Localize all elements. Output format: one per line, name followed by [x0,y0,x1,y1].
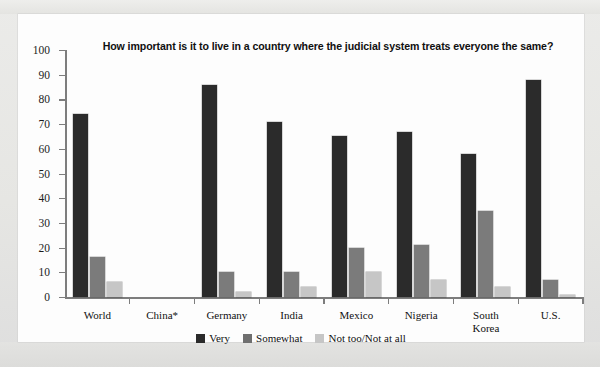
x-axis-category-label: Nigeria [389,309,454,322]
legend-item[interactable]: Somewhat [243,332,302,344]
legend-item[interactable]: Very [196,332,230,344]
bars-container [195,50,260,297]
bar[interactable] [414,245,429,297]
scan-band-top [0,0,600,14]
bar[interactable] [301,287,316,297]
x-axis-category-label: India [259,309,324,322]
bar[interactable] [543,280,558,297]
bar[interactable] [219,272,234,297]
bar-group: Germany [195,50,260,297]
y-tick-label: 40 [39,192,51,204]
bar-group: World [65,50,130,297]
plot-area: 1009080706050403020100 WorldChina*German… [65,50,583,297]
y-tick-label: 90 [39,69,51,81]
bars-container [454,50,519,297]
y-tick-label: 10 [39,266,51,278]
bar[interactable] [107,282,122,297]
bar[interactable] [461,154,476,297]
bar-group: U.S. [518,50,583,297]
bars-container [259,50,324,297]
y-tick-label: 30 [39,217,51,229]
bar-group: South Korea [454,50,519,297]
x-axis-tick [194,297,195,304]
chart-page: How important is it to live in a country… [0,0,600,367]
x-axis-category-label: China* [130,309,195,322]
x-axis-category-label: U.S. [518,309,583,322]
scan-band-bottom [0,342,600,367]
y-tick-label: 70 [39,118,51,130]
y-tick: 0 [59,297,65,298]
x-axis-tick [453,297,454,304]
bar[interactable] [267,122,282,297]
bar-group: China* [130,50,195,297]
legend-label: Somewhat [256,332,302,344]
chart-legend: VerySomewhatNot too/Not at all [18,332,584,344]
bar[interactable] [431,280,446,297]
y-tick-label: 0 [44,291,50,303]
x-axis-category-label: World [65,309,130,322]
bar[interactable] [332,136,347,297]
bar[interactable] [90,257,105,297]
bar[interactable] [366,272,381,297]
bar[interactable] [560,295,575,297]
x-axis-tick [129,297,130,304]
bar-group: Nigeria [389,50,454,297]
bar[interactable] [478,211,493,297]
bars-container [130,50,195,297]
bar-group: Mexico [324,50,389,297]
y-tick-label: 60 [39,143,51,155]
bars-container [65,50,130,297]
bar[interactable] [284,272,299,297]
bar[interactable] [349,248,364,297]
bars-container [324,50,389,297]
bar-group: India [259,50,324,297]
bars-container [389,50,454,297]
y-tick-label: 100 [33,44,50,56]
somewhat-swatch [243,334,252,343]
x-axis-category-label: Germany [195,309,260,322]
y-tick-label: 80 [39,93,51,105]
x-axis-tick [259,297,260,304]
x-axis-category-label: Mexico [324,309,389,322]
x-axis-tick [323,297,324,304]
not-too-swatch [315,334,324,343]
bar[interactable] [202,85,217,297]
legend-label: Very [209,332,230,344]
very-swatch [196,334,205,343]
y-tick-label: 20 [39,242,51,254]
chart-panel: How important is it to live in a country… [18,14,584,342]
bar[interactable] [236,292,251,297]
x-axis-tick [388,297,389,304]
bars-container [518,50,583,297]
legend-item[interactable]: Not too/Not at all [315,332,405,344]
bar[interactable] [526,80,541,297]
y-tick-label: 50 [39,168,51,180]
legend-label: Not too/Not at all [328,332,405,344]
bar[interactable] [73,114,88,297]
bar[interactable] [495,287,510,297]
x-axis-tick [582,297,583,304]
bar[interactable] [397,132,412,297]
x-axis-tick [518,297,519,304]
